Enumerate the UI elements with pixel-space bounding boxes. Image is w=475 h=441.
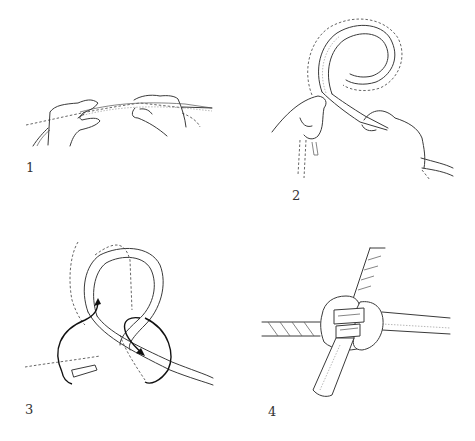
rope-loop-illustration: [240, 0, 475, 220]
step-4-label: 4: [268, 404, 276, 419]
step-2-panel: 2: [240, 0, 475, 220]
step-3-label: 3: [25, 402, 33, 417]
step-1-label: 1: [26, 160, 34, 175]
loop-with-arrows-illustration: [0, 220, 240, 441]
step-4-panel: 4: [240, 220, 475, 441]
step-2-label: 2: [292, 188, 300, 203]
step-3-panel: 3: [0, 220, 240, 441]
hands-holding-rope-illustration: [0, 0, 240, 220]
step-1-panel: 1: [0, 0, 240, 220]
